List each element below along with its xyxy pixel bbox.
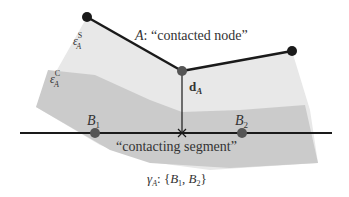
contacting-segment-label: “contacting segment” <box>116 139 237 154</box>
contact-diagram: A: “contacted node” εSA εCA dA B1 B2 “co… <box>0 0 349 197</box>
contacted-node-label: A: “contacted node” <box>134 28 248 43</box>
diagram-canvas: A: “contacted node” εSA εCA dA B1 B2 “co… <box>0 0 349 197</box>
node-contacted-A <box>177 66 187 76</box>
node-left <box>82 12 92 22</box>
node-right <box>287 46 297 56</box>
gamma-set-label: γA: {B1, B2} <box>147 171 207 188</box>
